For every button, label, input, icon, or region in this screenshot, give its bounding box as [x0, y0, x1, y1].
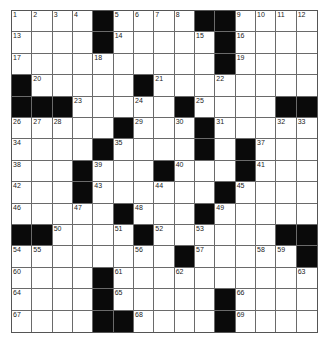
letter-cell[interactable]: 63	[297, 268, 317, 289]
letter-cell[interactable]: 46	[12, 204, 32, 225]
letter-cell[interactable]	[73, 54, 93, 75]
letter-cell[interactable]	[175, 75, 195, 96]
letter-cell[interactable]: 38	[12, 161, 32, 182]
letter-cell[interactable]	[114, 54, 134, 75]
letter-cell[interactable]	[195, 289, 215, 310]
letter-cell[interactable]	[236, 97, 256, 118]
letter-cell[interactable]	[73, 225, 93, 246]
letter-cell[interactable]	[276, 161, 296, 182]
letter-cell[interactable]: 47	[73, 204, 93, 225]
letter-cell[interactable]	[215, 161, 235, 182]
letter-cell[interactable]	[32, 311, 52, 332]
letter-cell[interactable]: 15	[195, 32, 215, 53]
letter-cell[interactable]	[134, 289, 154, 310]
letter-cell[interactable]	[32, 204, 52, 225]
letter-cell[interactable]	[256, 225, 276, 246]
letter-cell[interactable]: 9	[236, 11, 256, 32]
letter-cell[interactable]: 65	[114, 289, 134, 310]
letter-cell[interactable]: 26	[12, 118, 32, 139]
letter-cell[interactable]	[195, 161, 215, 182]
letter-cell[interactable]: 31	[215, 118, 235, 139]
letter-cell[interactable]	[236, 118, 256, 139]
letter-cell[interactable]: 55	[32, 246, 52, 267]
letter-cell[interactable]	[256, 311, 276, 332]
letter-cell[interactable]	[276, 204, 296, 225]
letter-cell[interactable]: 49	[215, 204, 235, 225]
letter-cell[interactable]: 3	[53, 11, 73, 32]
letter-cell[interactable]: 29	[134, 118, 154, 139]
letter-cell[interactable]	[297, 32, 317, 53]
letter-cell[interactable]	[236, 246, 256, 267]
letter-cell[interactable]: 50	[53, 225, 73, 246]
letter-cell[interactable]: 21	[154, 75, 174, 96]
letter-cell[interactable]	[297, 139, 317, 160]
letter-cell[interactable]: 42	[12, 182, 32, 203]
letter-cell[interactable]	[297, 289, 317, 310]
letter-cell[interactable]	[256, 204, 276, 225]
letter-cell[interactable]	[73, 246, 93, 267]
letter-cell[interactable]: 24	[134, 97, 154, 118]
letter-cell[interactable]	[134, 161, 154, 182]
letter-cell[interactable]	[53, 139, 73, 160]
letter-cell[interactable]	[73, 75, 93, 96]
letter-cell[interactable]	[215, 139, 235, 160]
letter-cell[interactable]	[73, 32, 93, 53]
letter-cell[interactable]: 67	[12, 311, 32, 332]
letter-cell[interactable]: 39	[93, 161, 113, 182]
letter-cell[interactable]	[32, 268, 52, 289]
letter-cell[interactable]	[256, 75, 276, 96]
letter-cell[interactable]	[195, 54, 215, 75]
letter-cell[interactable]	[53, 32, 73, 53]
letter-cell[interactable]	[53, 161, 73, 182]
letter-cell[interactable]	[276, 182, 296, 203]
letter-cell[interactable]	[53, 268, 73, 289]
letter-cell[interactable]	[73, 268, 93, 289]
letter-cell[interactable]	[256, 97, 276, 118]
letter-cell[interactable]: 8	[175, 11, 195, 32]
letter-cell[interactable]: 64	[12, 289, 32, 310]
letter-cell[interactable]	[175, 225, 195, 246]
letter-cell[interactable]	[256, 54, 276, 75]
letter-cell[interactable]: 10	[256, 11, 276, 32]
letter-cell[interactable]: 44	[154, 182, 174, 203]
letter-cell[interactable]: 57	[195, 246, 215, 267]
letter-cell[interactable]: 58	[256, 246, 276, 267]
letter-cell[interactable]	[215, 225, 235, 246]
letter-cell[interactable]	[114, 246, 134, 267]
letter-cell[interactable]	[297, 204, 317, 225]
letter-cell[interactable]	[276, 311, 296, 332]
letter-cell[interactable]: 69	[236, 311, 256, 332]
letter-cell[interactable]: 28	[53, 118, 73, 139]
letter-cell[interactable]	[297, 311, 317, 332]
letter-cell[interactable]: 14	[114, 32, 134, 53]
letter-cell[interactable]: 68	[134, 311, 154, 332]
letter-cell[interactable]	[215, 97, 235, 118]
letter-cell[interactable]	[297, 54, 317, 75]
letter-cell[interactable]: 62	[175, 268, 195, 289]
letter-cell[interactable]	[195, 311, 215, 332]
letter-cell[interactable]: 51	[114, 225, 134, 246]
letter-cell[interactable]	[236, 204, 256, 225]
letter-cell[interactable]	[195, 75, 215, 96]
letter-cell[interactable]	[93, 246, 113, 267]
letter-cell[interactable]: 12	[297, 11, 317, 32]
letter-cell[interactable]	[175, 311, 195, 332]
letter-cell[interactable]	[53, 311, 73, 332]
letter-cell[interactable]	[154, 268, 174, 289]
letter-cell[interactable]	[154, 246, 174, 267]
letter-cell[interactable]: 13	[12, 32, 32, 53]
letter-cell[interactable]	[93, 97, 113, 118]
letter-cell[interactable]	[276, 54, 296, 75]
letter-cell[interactable]	[53, 54, 73, 75]
letter-cell[interactable]	[134, 32, 154, 53]
letter-cell[interactable]	[215, 268, 235, 289]
letter-cell[interactable]: 33	[297, 118, 317, 139]
letter-cell[interactable]	[134, 268, 154, 289]
letter-cell[interactable]: 5	[114, 11, 134, 32]
letter-cell[interactable]	[53, 182, 73, 203]
letter-cell[interactable]: 41	[256, 161, 276, 182]
letter-cell[interactable]	[134, 139, 154, 160]
letter-cell[interactable]	[236, 225, 256, 246]
letter-cell[interactable]	[53, 289, 73, 310]
letter-cell[interactable]: 1	[12, 11, 32, 32]
